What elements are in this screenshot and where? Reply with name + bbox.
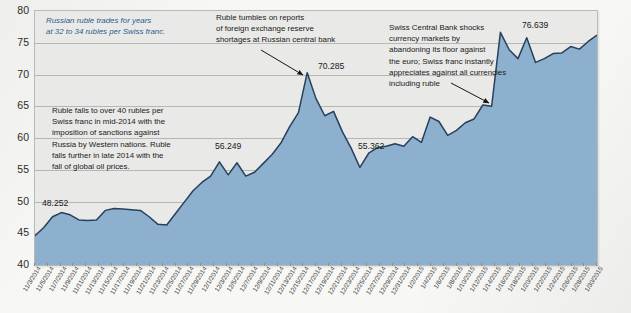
data-label-56249: 56.249 [215, 141, 241, 151]
scanned-page-background: 404550556065707580 11/3/201411/5/201411/… [0, 0, 631, 313]
annotation-leader-arrows [0, 0, 631, 313]
data-label-70285: 70.285 [318, 61, 344, 71]
data-label-48252: 48.252 [42, 198, 68, 208]
data-label-55362: 55.362 [358, 141, 384, 151]
data-label-76639: 76.639 [522, 20, 548, 30]
